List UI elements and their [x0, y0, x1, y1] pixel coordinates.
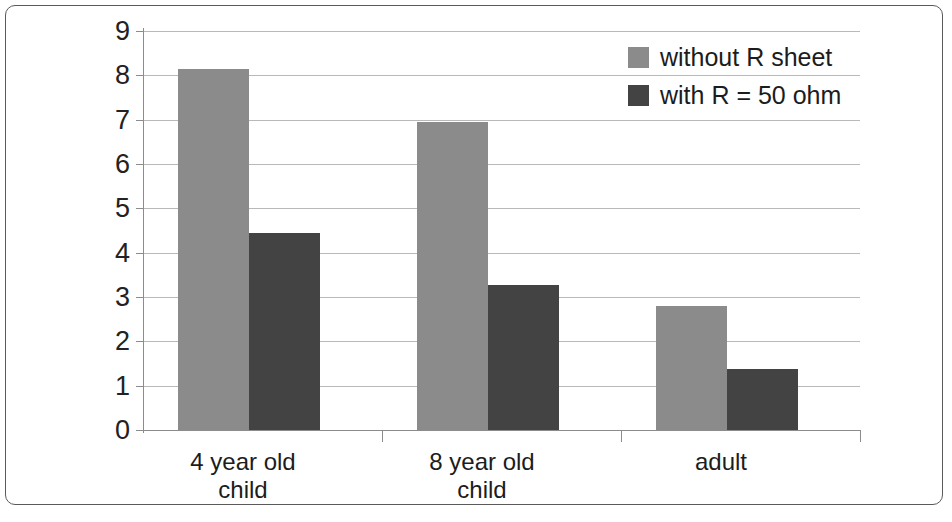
legend-item-with-r-50-ohm[interactable]: with R = 50 ohm [628, 76, 928, 114]
x-axis-label-8-year-old-child: 8 year old child [402, 448, 562, 504]
y-tick-mark-3 [136, 297, 144, 298]
bar-with-r-50-ohm-4-year-old-child[interactable] [249, 233, 320, 430]
y-tick-mark-6 [136, 164, 144, 165]
y-tick-mark-4 [136, 253, 144, 254]
legend-item-without-r-sheet[interactable]: without R sheet [628, 38, 928, 76]
y-tick-label-3: 3 [90, 284, 130, 311]
y-tick-label-6: 6 [90, 151, 130, 178]
bar-without-r-sheet-4-year-old-child[interactable] [178, 69, 249, 430]
y-tick-mark-9 [136, 31, 144, 32]
x-axis-label-line-2: child [163, 476, 323, 504]
y-tick-label-5: 5 [90, 195, 130, 222]
x-tick-mark-2 [621, 430, 622, 442]
y-tick-mark-8 [136, 75, 144, 76]
y-tick-label-8: 8 [90, 62, 130, 89]
y-tick-label-4: 4 [90, 240, 130, 267]
bar-without-r-sheet-adult[interactable] [656, 306, 727, 430]
y-tick-mark-1 [136, 386, 144, 387]
x-axis-label-adult: adult [641, 448, 801, 476]
legend-label-without-r-sheet: without R sheet [660, 43, 832, 72]
y-tick-label-0: 0 [90, 417, 130, 444]
x-tick-mark-1 [382, 430, 383, 442]
x-axis-line [143, 430, 861, 431]
bar-with-r-50-ohm-8-year-old-child[interactable] [488, 285, 559, 430]
legend: without R sheet with R = 50 ohm [628, 38, 928, 114]
legend-label-with-r-50-ohm: with R = 50 ohm [660, 81, 841, 110]
y-tick-label-7: 7 [90, 107, 130, 134]
bar-with-r-50-ohm-adult[interactable] [727, 369, 798, 430]
y-tick-mark-5 [136, 208, 144, 209]
legend-swatch-icon-without-r-sheet [628, 47, 649, 68]
y-tick-label-2: 2 [90, 328, 130, 355]
y-tick-label-9: 9 [90, 18, 130, 45]
x-axis-label-line-1: 4 year old [163, 448, 323, 476]
y-tick-mark-0 [136, 430, 144, 431]
legend-swatch-icon-with-r-50-ohm [628, 85, 649, 106]
x-axis-label-line-2: child [402, 476, 562, 504]
x-axis-label-line-1: adult [641, 448, 801, 476]
bar-without-r-sheet-8-year-old-child[interactable] [417, 122, 488, 430]
y-tick-label-1: 1 [90, 373, 130, 400]
x-tick-mark-3 [860, 430, 861, 442]
x-axis-label-line-1: 8 year old [402, 448, 562, 476]
y-tick-mark-2 [136, 341, 144, 342]
x-axis-label-4-year-old-child: 4 year old child [163, 448, 323, 504]
bar-chart-figure: 9 8 7 6 5 4 3 2 1 0 4 year old child 8 y… [0, 0, 952, 522]
y-tick-mark-7 [136, 120, 144, 121]
